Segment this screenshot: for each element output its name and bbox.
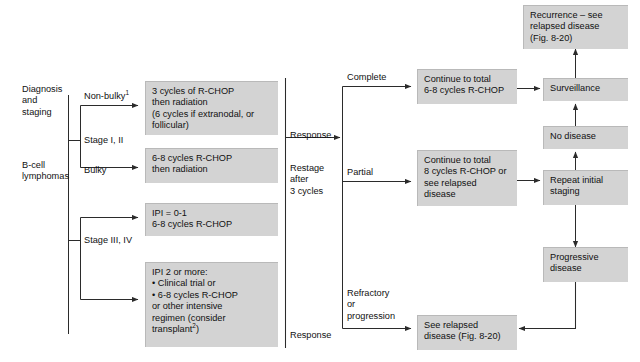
box-no-disease: No disease xyxy=(543,126,628,149)
label-response-top: Response xyxy=(290,130,331,141)
box-ipi-2-text-tail: ) xyxy=(196,324,199,334)
box-bulky-treatment: 6-8 cycles R-CHOP then radiation xyxy=(145,148,278,183)
label-restage-after-3-cycles: Restage after 3 cycles xyxy=(290,163,350,197)
box-ipi-0-1-treatment: IPI = 0-1 6-8 cycles R-CHOP xyxy=(145,203,278,236)
branch-label-stage-i-ii: Stage I, II xyxy=(84,135,123,146)
label-response-bottom: Response xyxy=(290,330,331,341)
box-ipi-2-or-more-treatment: IPI 2 or more: • Clinical trial or • 6-8… xyxy=(145,262,278,347)
box-refractory-plan: See relapsed disease (Fig. 8-20) xyxy=(417,315,517,350)
footnote-marker-1: 1 xyxy=(125,89,129,96)
branch-label-complete: Complete xyxy=(347,72,386,83)
box-partial-response-plan: Continue to total 8 cycles R-CHOP or see… xyxy=(417,150,517,206)
box-surveillance: Surveillance xyxy=(543,78,628,101)
branch-label-non-bulky: Non-bulky1 xyxy=(84,91,129,102)
branch-label-non-bulky-text: Non-bulky xyxy=(84,91,125,101)
box-complete-response-plan: Continue to total 6-8 cycles R-CHOP xyxy=(417,69,517,104)
box-recurrence: Recurrence – see relapsed disease (Fig. … xyxy=(523,5,628,49)
branch-label-stage-iii-iv: Stage III, IV xyxy=(84,235,132,246)
flowchart-canvas: Diagnosis and staging B-cell lymphomas N… xyxy=(0,0,640,362)
branch-label-partial: Partial xyxy=(347,167,373,178)
branch-label-bulky: Bulky xyxy=(84,165,106,176)
branch-label-refractory-or-progression: Refractory or progression xyxy=(347,288,407,322)
arrow-progressive-to-relapsed xyxy=(519,276,576,329)
box-repeat-initial-staging: Repeat initial staging xyxy=(543,170,628,205)
box-progressive-disease: Progressive disease xyxy=(543,247,628,282)
box-non-bulky-treatment: 3 cycles of R-CHOP then radiation (6 cyc… xyxy=(145,81,278,135)
